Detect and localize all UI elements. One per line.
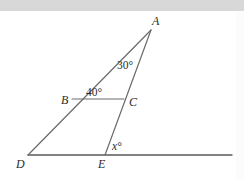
vertex-label-E: E — [97, 157, 106, 171]
segment-AE — [105, 30, 151, 155]
vertex-label-D: D — [15, 157, 25, 171]
geometry-figure: A B C D E 30° 40° x° — [0, 0, 244, 179]
angle-label-b-40: 40° — [86, 86, 103, 98]
angle-label-a-30: 30° — [117, 59, 134, 71]
vertex-label-C: C — [129, 95, 138, 109]
vertex-label-A: A — [151, 14, 160, 28]
geometry-canvas: A B C D E 30° 40° x° — [0, 0, 244, 179]
angle-label-e-x: x° — [111, 140, 122, 152]
vertex-label-B: B — [61, 93, 69, 107]
